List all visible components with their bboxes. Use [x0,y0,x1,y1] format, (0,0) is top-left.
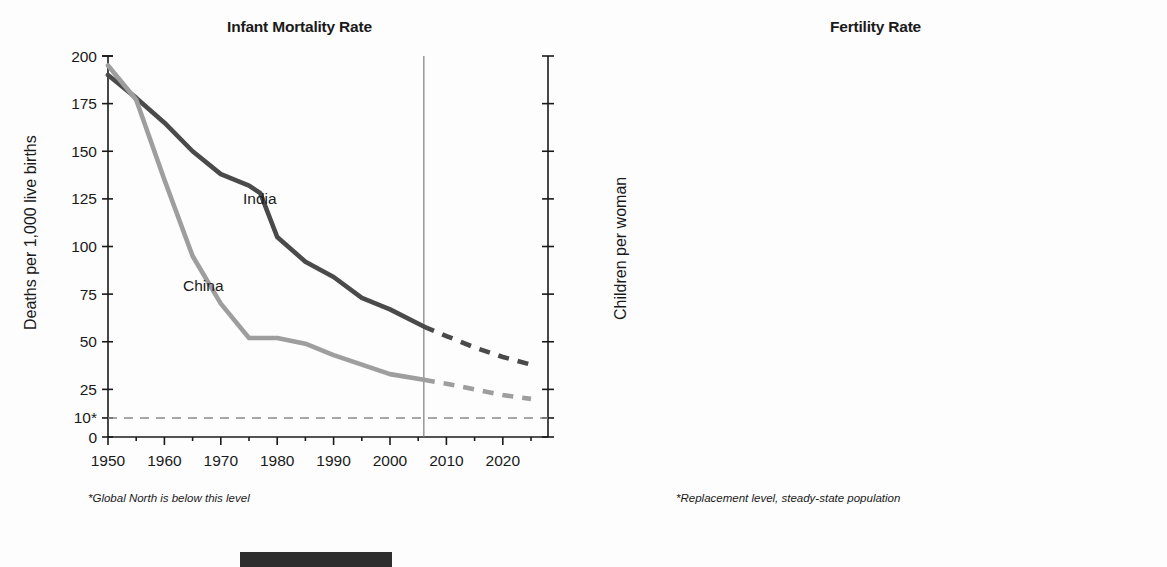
series-label-china: China [183,277,224,294]
footer-black-block [240,552,392,567]
x-axis-tick-label: 2000 [373,452,408,469]
figure-root: Infant Mortality Rate Deaths per 1,000 l… [0,0,1167,567]
series-label-india: India [243,190,277,207]
x-axis-tick-label: 1950 [91,452,126,469]
y-axis-tick-label: 25 [80,381,97,398]
footnote-infant-mortality: *Global North is below this level [88,492,250,504]
x-axis-tick-label: 2020 [486,452,521,469]
plot-area-fertility: 012*345671950196019701980199020002010202… [584,0,1167,480]
y-axis-tick-label: 100 [71,238,97,255]
y-axis-tick-label: 150 [71,143,97,160]
y-axis-tick-label: 175 [71,95,97,112]
footnote-fertility: *Replacement level, steady-state populat… [676,492,900,504]
series-projection-china [424,380,531,399]
y-axis-tick-label: 50 [80,333,98,350]
y-axis-tick-label: 125 [71,190,97,207]
y-axis-tick-label: 200 [71,48,97,65]
x-axis-tick-label: 1960 [147,452,182,469]
y-axis-tick-label: 75 [80,286,97,303]
y-axis-tick-label: 0 [88,429,97,446]
plot-area-infant-mortality: 010*255075100125150175200195019601970198… [0,0,583,480]
panel-infant-mortality: Infant Mortality Rate Deaths per 1,000 l… [0,0,583,567]
x-axis-tick-label: 1970 [204,452,239,469]
x-axis-tick-label: 1980 [260,452,295,469]
x-axis-tick-label: 1990 [316,452,351,469]
series-projection-india [424,327,531,365]
x-axis-tick-label: 2010 [429,452,464,469]
panel-fertility: Fertility Rate Children per woman 012*34… [584,0,1167,567]
y-axis-tick-label: 10* [74,409,97,426]
